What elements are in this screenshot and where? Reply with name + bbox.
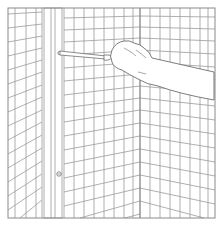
trim-strip [44,8,62,218]
screw-icon [57,172,61,176]
illustration [0,0,224,225]
